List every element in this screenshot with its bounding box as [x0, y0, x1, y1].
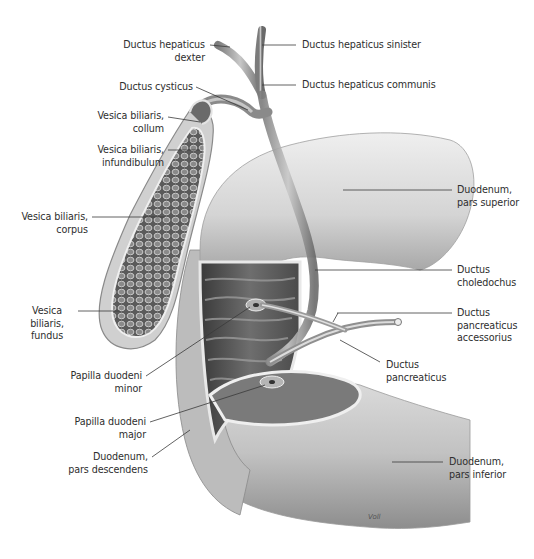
label-duodenum-pars-descendens: Duodenum, pars descendens	[30, 451, 148, 476]
label-ductus-hepaticus-communis: Ductus hepaticus communis	[302, 79, 436, 92]
label-papilla-duodeni-minor: Papilla duodeni minor	[30, 370, 142, 395]
label-ductus-pancreaticus-accessorius: Ductus pancreaticus accessorius	[457, 307, 517, 345]
label-ductus-pancreaticus: Ductus pancreaticus	[386, 359, 446, 384]
label-ductus-cysticus: Ductus cysticus	[70, 81, 193, 94]
label-vesica-biliaris-infundibulum: Vesica biliaris, infundibulum	[40, 144, 164, 169]
label-ductus-hepaticus-dexter: Ductus hepaticus dexter	[80, 39, 205, 64]
label-vesica-biliaris-collum: Vesica biliaris, collum	[40, 110, 164, 135]
label-vesica-biliaris-corpus: Vesica biliaris, corpus	[0, 211, 88, 236]
duodenum-pars-superior-shape	[200, 133, 474, 270]
ductus-hepaticus-sinister-shape	[259, 30, 262, 95]
artist-signature: Voll	[368, 513, 381, 521]
label-ductus-hepaticus-sinister: Ductus hepaticus sinister	[302, 39, 421, 52]
label-papilla-duodeni-major: Papilla duodeni major	[30, 416, 146, 441]
label-duodenum-pars-inferior: Duodenum, pars inferior	[449, 456, 506, 481]
anatomy-figure: Ductus hepaticus dexter Ductus hepaticus…	[0, 0, 534, 559]
label-duodenum-pars-superior: Duodenum, pars superior	[457, 184, 519, 209]
label-ductus-choledochus: Ductus choledochus	[457, 264, 516, 289]
label-vesica-biliaris-fundus: Vesica biliaris, fundus	[20, 305, 74, 343]
